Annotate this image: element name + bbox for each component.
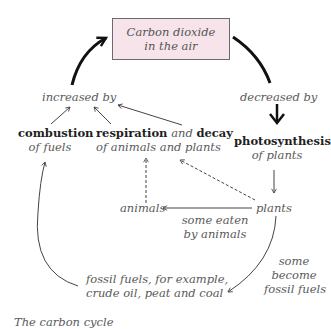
- combustion-label: combustion: [18, 126, 82, 140]
- photosynthesis-sub: of plants: [234, 148, 320, 162]
- eaten-line-2: by animals: [180, 227, 250, 241]
- some-become-fossil-label: some become fossil fuels: [264, 254, 324, 296]
- figure-caption-partial: The carbon cycle: [14, 315, 114, 329]
- increased-by-label: increased by: [42, 90, 116, 104]
- box-line-2: in the air: [144, 39, 197, 53]
- become-line-2: become: [264, 268, 324, 282]
- arrow-decrease: [233, 37, 270, 83]
- box-line-1: Carbon dioxide: [127, 25, 216, 39]
- photosynthesis-label: photosynthesis: [234, 134, 320, 148]
- combustion-node: combustion of fuels: [18, 126, 82, 154]
- arrow-increase: [72, 38, 106, 85]
- animals-node: animals: [120, 201, 165, 215]
- respiration-sub: of animals and plants: [96, 140, 212, 154]
- combustion-sub: of fuels: [18, 140, 82, 154]
- eaten-line-1: some eaten: [180, 213, 250, 227]
- decreased-by-label: decreased by: [240, 90, 317, 104]
- become-line-3: fossil fuels: [264, 282, 324, 296]
- decay-label: decay: [196, 126, 233, 140]
- fossil-line-1: fossil fuels, for example,: [86, 272, 222, 286]
- become-line-1: some: [264, 254, 324, 268]
- some-eaten-label: some eaten by animals: [180, 213, 250, 241]
- carbon-dioxide-box: Carbon dioxide in the air: [112, 18, 230, 60]
- photosynthesis-node: photosynthesis of plants: [234, 134, 320, 162]
- and-label: and: [167, 126, 196, 140]
- respiration-decay-node: respiration and decay of animals and pla…: [96, 126, 212, 154]
- respiration-label: respiration: [96, 126, 167, 140]
- plants-node: plants: [256, 201, 292, 215]
- fossil-line-2: crude oil, peat and coal: [86, 286, 222, 300]
- fossil-fuels-node: fossil fuels, for example, crude oil, pe…: [86, 272, 222, 300]
